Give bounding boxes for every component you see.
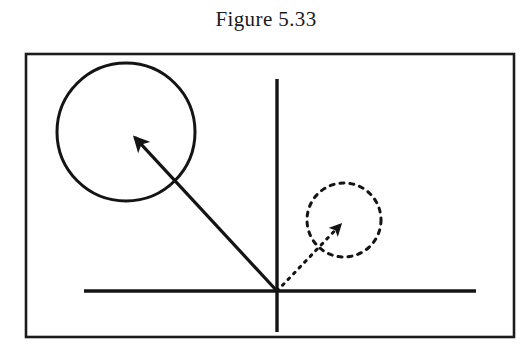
small-dashed-circle (307, 183, 381, 257)
figure-drawing (0, 0, 532, 356)
long-solid-vector (135, 137, 277, 291)
figure-container: Figure 5.33 (0, 0, 532, 356)
